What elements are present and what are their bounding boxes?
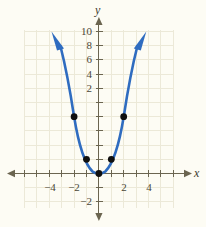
y-axis-bottom-arrowhead — [95, 213, 102, 221]
x-tick-label-2: 2 — [117, 182, 131, 193]
y-axis — [95, 17, 102, 221]
y-tick-label-neg2: −2 — [70, 196, 92, 207]
point-2-4 — [120, 113, 127, 120]
x-axis-right-arrowhead — [184, 170, 192, 177]
point-0-0 — [96, 170, 103, 177]
point-neg1-1 — [83, 156, 90, 163]
y-tick-label-10: 10 — [74, 26, 92, 37]
y-tick-label-8: 8 — [74, 40, 92, 51]
x-tick-label-4: 4 — [142, 182, 156, 193]
y-axis-label: y — [95, 4, 100, 16]
point-neg2-4 — [71, 113, 78, 120]
x-axis-left-arrowhead — [7, 170, 15, 177]
y-axis-top-arrowhead — [95, 17, 102, 25]
y-tick-label-4: 4 — [74, 69, 92, 80]
x-axis-label: x — [194, 167, 199, 179]
y-tick-label-2: 2 — [74, 83, 92, 94]
x-tick-label-neg2: −2 — [64, 182, 84, 193]
y-tick-label-6: 6 — [74, 54, 92, 65]
graph-figure: 10 8 6 4 2 −2 −4 −2 2 4 y x — [0, 0, 206, 227]
point-1-1 — [108, 156, 115, 163]
coordinate-plane-svg — [0, 0, 206, 227]
x-tick-label-neg4: −4 — [40, 182, 60, 193]
